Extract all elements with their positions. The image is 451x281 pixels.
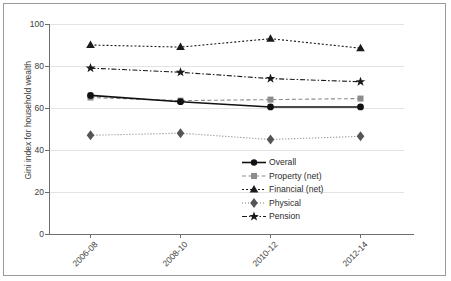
marker-diamond	[177, 128, 185, 138]
legend-label-pension: Pension	[269, 212, 300, 221]
legend-swatch-overall	[240, 157, 266, 168]
series-financial-net	[86, 34, 365, 51]
marker-diamond	[87, 130, 95, 140]
marker-square	[268, 97, 274, 103]
legend-swatch-property-net	[240, 171, 266, 182]
marker-circle	[87, 92, 94, 99]
plot-area: Gini index for household wealth 100 80 6…	[4, 4, 445, 275]
marker-diamond	[357, 131, 365, 141]
series-overall	[87, 92, 364, 110]
gridlines	[49, 25, 404, 193]
marker-triangle	[266, 34, 275, 42]
series-physical	[87, 128, 365, 144]
legend-label-financial-net: Financial (net)	[269, 185, 323, 194]
marker-circle	[177, 98, 184, 105]
marker-circle	[357, 104, 364, 111]
marker-triangle	[86, 41, 95, 49]
series-property-net	[88, 95, 364, 104]
legend-item-financial-net[interactable]: Financial (net)	[240, 183, 350, 197]
chart-svg	[4, 4, 447, 277]
legend-item-pension[interactable]: Pension	[240, 210, 350, 224]
marker-square	[358, 96, 364, 102]
legend-label-property-net: Property (net)	[269, 172, 322, 181]
y-axis-ticks	[45, 25, 49, 235]
legend-item-physical[interactable]: Physical	[240, 197, 350, 211]
marker-diamond	[267, 135, 275, 145]
chart-legend: Overall Property (net) Financial (net) P…	[240, 156, 350, 224]
marker-circle	[267, 104, 274, 111]
legend-swatch-physical	[240, 198, 266, 209]
legend-item-property-net[interactable]: Property (net)	[240, 170, 350, 184]
legend-label-overall: Overall	[269, 158, 296, 167]
legend-swatch-pension	[240, 211, 266, 222]
legend-item-overall[interactable]: Overall	[240, 156, 350, 170]
legend-swatch-financial-net	[240, 184, 266, 195]
marker-triangle	[356, 44, 365, 52]
legend-label-physical: Physical	[269, 199, 301, 208]
chart-figure: Gini index for household wealth 100 80 6…	[3, 3, 446, 276]
